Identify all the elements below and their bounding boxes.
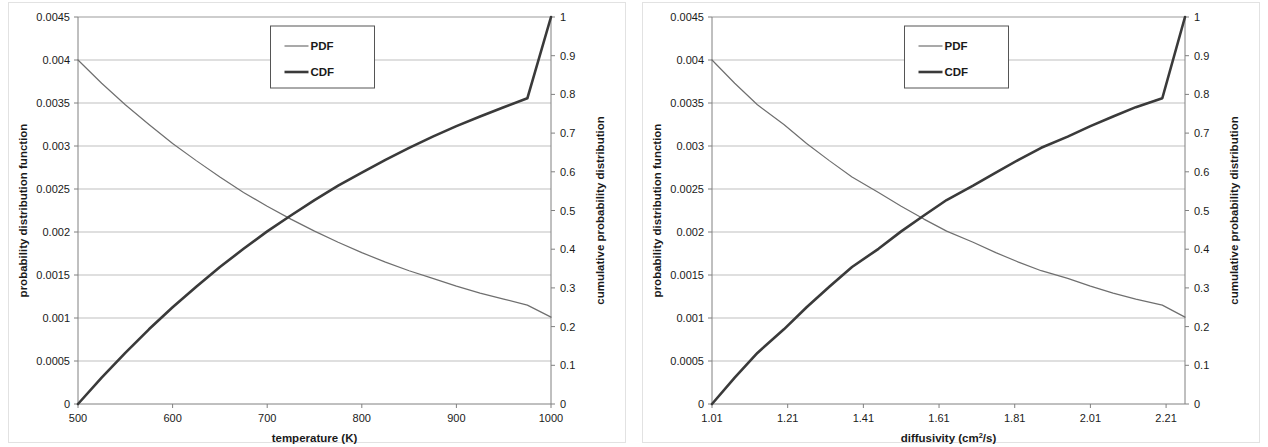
- left-tick-label: 0.0025: [670, 183, 704, 195]
- x-axis-title: diffusivity (cm2/s): [901, 431, 997, 444]
- right-tick-label: 0.7: [560, 127, 575, 139]
- left-tick-label: 0.0015: [670, 269, 704, 281]
- right-tick-label: 0.8: [1194, 88, 1209, 100]
- x-tick-label: 1.01: [701, 412, 722, 424]
- x-tick-label: 1.41: [853, 412, 874, 424]
- right-tick-label: 1: [560, 11, 566, 23]
- right-tick-label: 0.2: [1194, 321, 1209, 333]
- bottom-axis: 1.011.211.411.611.812.012.21: [701, 404, 1177, 424]
- x-tick-label: 1.61: [928, 412, 949, 424]
- right-tick-label: 0.4: [560, 243, 575, 255]
- left-tick-label: 0.002: [42, 226, 70, 238]
- axis-titles: probability distribution functioncumulat…: [17, 116, 606, 444]
- left-tick-label: 0.0005: [670, 355, 704, 367]
- x-tick-label: 500: [69, 412, 87, 424]
- legend-label-cdf: CDF: [945, 66, 969, 78]
- right-axis: 00.10.20.30.40.50.60.70.80.91: [1185, 11, 1209, 410]
- y2-axis-title: cumulative probability distribution: [1228, 116, 1240, 305]
- chart-svg-diffusivity: 00.00050.0010.00150.0020.00250.0030.0035…: [634, 0, 1268, 447]
- y-axis-title: probability distribution function: [651, 124, 663, 298]
- left-tick-label: 0.003: [42, 140, 70, 152]
- y-axis-title: probability distribution function: [17, 124, 29, 298]
- right-tick-label: 1: [1194, 11, 1200, 23]
- left-tick-label: 0.0025: [36, 183, 70, 195]
- chart-svg-temperature: 00.00050.0010.00150.0020.00250.0030.0035…: [0, 0, 634, 447]
- bottom-axis: 5006007008009001000: [69, 404, 563, 424]
- left-axis: 00.00050.0010.00150.0020.00250.0030.0035…: [36, 11, 78, 410]
- left-tick-label: 0.0035: [36, 97, 70, 109]
- x-tick-label: 1000: [539, 412, 563, 424]
- y2-axis-title: cumulative probability distribution: [594, 116, 606, 305]
- left-tick-label: 0.002: [676, 226, 704, 238]
- left-tick-label: 0.003: [676, 140, 704, 152]
- left-tick-label: 0.001: [42, 312, 70, 324]
- x-tick-label: 800: [353, 412, 371, 424]
- right-tick-label: 0.1: [560, 359, 575, 371]
- right-tick-label: 0.7: [1194, 127, 1209, 139]
- x-axis-title-tail: /s): [983, 432, 997, 444]
- right-tick-label: 0.4: [1194, 243, 1209, 255]
- x-tick-label: 1.81: [1004, 412, 1025, 424]
- left-tick-label: 0.0045: [36, 11, 70, 23]
- left-axis: 00.00050.0010.00150.0020.00250.0030.0035…: [670, 11, 712, 410]
- axis-titles: probability distribution functioncumulat…: [651, 116, 1240, 444]
- right-tick-label: 0: [1194, 398, 1200, 410]
- left-tick-label: 0.0015: [36, 269, 70, 281]
- right-axis: 00.10.20.30.40.50.60.70.80.91: [551, 11, 575, 410]
- left-tick-label: 0.0005: [36, 355, 70, 367]
- legend-box: [905, 26, 1009, 88]
- legend[interactable]: PDFCDF: [905, 26, 1009, 88]
- figure-container: 00.00050.0010.00150.0020.00250.0030.0035…: [0, 0, 1268, 447]
- legend[interactable]: PDFCDF: [271, 26, 375, 88]
- x-axis-title-base: diffusivity (cm: [901, 432, 979, 444]
- x-tick-label: 2.01: [1080, 412, 1101, 424]
- x-tick-label: 700: [258, 412, 276, 424]
- right-tick-label: 0.3: [1194, 282, 1209, 294]
- right-tick-label: 0.6: [560, 166, 575, 178]
- right-tick-label: 0.2: [560, 321, 575, 333]
- x-tick-label: 2.21: [1155, 412, 1176, 424]
- left-tick-label: 0.001: [676, 312, 704, 324]
- plot-diffusivity: 00.00050.0010.00150.0020.00250.0030.0035…: [634, 0, 1268, 447]
- legend-label-cdf: CDF: [311, 66, 335, 78]
- left-tick-label: 0.004: [42, 54, 70, 66]
- left-tick-label: 0: [698, 398, 704, 410]
- plot-temperature: 00.00050.0010.00150.0020.00250.0030.0035…: [0, 0, 634, 447]
- chart-panel-temperature: 00.00050.0010.00150.0020.00250.0030.0035…: [0, 0, 634, 447]
- x-tick-label: 900: [447, 412, 465, 424]
- left-tick-label: 0.004: [676, 54, 704, 66]
- right-tick-label: 0.3: [560, 282, 575, 294]
- legend-label-pdf: PDF: [311, 40, 334, 52]
- right-tick-label: 0.1: [1194, 359, 1209, 371]
- legend-label-pdf: PDF: [945, 40, 968, 52]
- left-tick-label: 0.0045: [670, 11, 704, 23]
- legend-box: [271, 26, 375, 88]
- x-tick-label: 1.21: [777, 412, 798, 424]
- right-tick-label: 0.8: [560, 88, 575, 100]
- right-tick-label: 0.6: [1194, 166, 1209, 178]
- right-tick-label: 0.9: [1194, 50, 1209, 62]
- right-tick-label: 0: [560, 398, 566, 410]
- left-tick-label: 0.0035: [670, 97, 704, 109]
- x-axis-title: temperature (K): [272, 432, 358, 444]
- right-tick-label: 0.5: [560, 205, 575, 217]
- right-tick-label: 0.5: [1194, 205, 1209, 217]
- right-tick-label: 0.9: [560, 50, 575, 62]
- left-tick-label: 0: [64, 398, 70, 410]
- chart-panel-diffusivity: 00.00050.0010.00150.0020.00250.0030.0035…: [634, 0, 1268, 447]
- x-tick-label: 600: [163, 412, 181, 424]
